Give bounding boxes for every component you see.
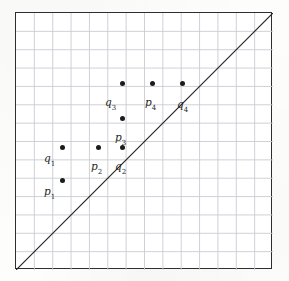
label-base: p xyxy=(145,96,152,108)
point-label-q2: q2 xyxy=(115,161,126,172)
label-base: q xyxy=(44,152,51,164)
point-dot-p4 xyxy=(150,81,155,86)
plot-box xyxy=(15,12,272,269)
label-base: q xyxy=(177,98,184,110)
label-subscript: 1 xyxy=(51,193,55,201)
point-label-q3: q3 xyxy=(105,97,116,108)
label-subscript: 4 xyxy=(152,104,156,112)
point-label-q1: q1 xyxy=(44,153,55,164)
point-dot-q3 xyxy=(120,81,125,86)
label-subscript: 1 xyxy=(51,160,55,168)
grid-lines xyxy=(16,13,273,270)
label-base: p xyxy=(115,131,122,143)
point-label-p1: p1 xyxy=(44,186,55,197)
label-subscript: 2 xyxy=(98,168,102,176)
label-subscript: 3 xyxy=(122,139,126,147)
label-subscript: 3 xyxy=(112,104,116,112)
label-subscript: 2 xyxy=(122,168,126,176)
label-base: p xyxy=(91,160,98,172)
diagonal-line xyxy=(16,13,273,270)
point-label-p3: p3 xyxy=(115,132,126,143)
point-dot-q1 xyxy=(60,145,65,150)
point-dot-p3 xyxy=(120,116,125,121)
point-dot-p1 xyxy=(60,178,65,183)
label-base: q xyxy=(105,96,112,108)
point-label-p2: p2 xyxy=(91,161,102,172)
label-base: p xyxy=(44,185,51,197)
point-label-p4: p4 xyxy=(145,97,156,108)
point-label-q4: q4 xyxy=(177,99,188,110)
point-dot-p2 xyxy=(96,145,101,150)
label-base: q xyxy=(115,160,122,172)
label-subscript: 4 xyxy=(184,106,188,114)
figure-canvas: p1q1p2q2p3q3p4q4 xyxy=(0,0,289,281)
point-dot-q4 xyxy=(180,81,185,86)
